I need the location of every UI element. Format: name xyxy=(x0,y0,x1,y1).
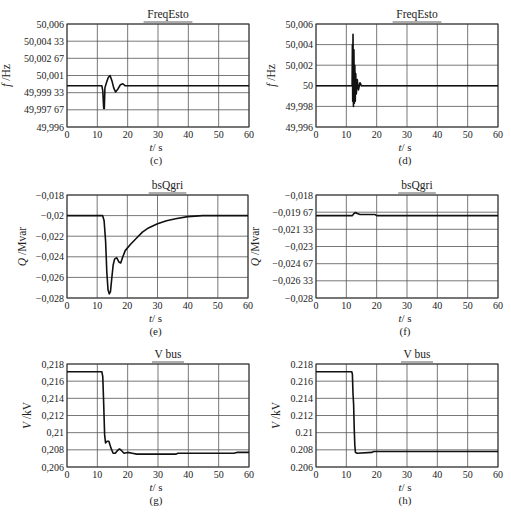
x-tick-label: 50 xyxy=(214,469,224,480)
y-tick-label: 50,002 xyxy=(286,60,314,71)
y-tick-label: 0,218 xyxy=(42,359,65,370)
y-tick-label: −0,024 67 xyxy=(272,258,313,269)
x-tick-label: 10 xyxy=(341,129,351,140)
x-tick-label: 30 xyxy=(402,129,412,140)
x-tick-label: 60 xyxy=(493,129,503,140)
x-tick-label: 0 xyxy=(65,300,70,311)
x-tick-label: 20 xyxy=(122,300,132,311)
y-tick-label: −0,024 xyxy=(36,251,64,262)
y-tick-label: 0,214 xyxy=(42,393,65,404)
y-tick-label: 0,212 xyxy=(42,410,65,421)
x-tick-label: 10 xyxy=(92,129,102,140)
y-tick-label: 0,216 xyxy=(42,376,65,387)
grid-lines xyxy=(67,24,249,127)
y-tick-label: 0.21 xyxy=(296,427,314,438)
x-tick-label: 10 xyxy=(92,469,102,480)
x-axis-label: t/ s xyxy=(398,141,411,153)
y-tick-label: 50,001 xyxy=(37,70,65,81)
y-tick-label: 49,996 xyxy=(286,122,314,133)
y-tick-label: −0,019 67 xyxy=(272,207,313,218)
y-tick-label: 0.208 xyxy=(291,444,314,455)
panel-label: (f) xyxy=(400,325,411,338)
panel-label: (d) xyxy=(399,154,412,167)
y-tick-label: 0,206 xyxy=(42,462,65,473)
y-tick-label: −0,023 xyxy=(285,241,313,252)
x-tick-label: 0 xyxy=(314,469,319,480)
figure-canvas: FreqEsto50,00650,004 3350,002 6750,00149… xyxy=(0,0,511,518)
y-tick-label: 49,997 67 xyxy=(24,104,64,115)
y-tick-label: 50,006 xyxy=(286,19,314,30)
x-axis-label: t/ s xyxy=(398,312,411,324)
x-tick-label: 60 xyxy=(493,300,503,311)
y-tick-label: 49,999 33 xyxy=(24,87,64,98)
y-tick-label: −0,018 xyxy=(36,190,64,201)
y-tick-label: 0.216 xyxy=(291,376,314,387)
chart-panel-g: V bus0,2180,2160,2140,2120,210,2080,2060… xyxy=(21,348,254,507)
x-tick-label: 40 xyxy=(183,300,193,311)
y-tick-label: 0.212 xyxy=(291,410,314,421)
x-tick-label: 50 xyxy=(214,129,224,140)
x-tick-label: 20 xyxy=(372,300,382,311)
chart-title: bsQgri xyxy=(152,179,183,192)
y-tick-label: 50,002 67 xyxy=(24,53,64,64)
grid-lines xyxy=(316,24,498,127)
x-tick-label: 10 xyxy=(341,300,351,311)
x-tick-label: 0 xyxy=(65,469,70,480)
y-axis-label: V /kV xyxy=(270,401,282,429)
x-tick-label: 50 xyxy=(463,129,473,140)
x-tick-label: 0 xyxy=(314,300,319,311)
y-tick-label: −0,021 33 xyxy=(272,224,313,235)
x-tick-label: 0 xyxy=(314,129,319,140)
y-axis-label: f /Hz xyxy=(0,64,13,87)
x-tick-label: 10 xyxy=(92,300,102,311)
y-tick-label: −0,026 33 xyxy=(272,275,313,286)
grid-lines xyxy=(67,364,249,467)
x-tick-label: 20 xyxy=(123,469,133,480)
chart-panel-h: V bus0.2180.2160.2140.2120.210.2080.2060… xyxy=(270,348,503,507)
x-tick-label: 30 xyxy=(153,469,163,480)
x-tick-label: 30 xyxy=(153,300,163,311)
y-tick-label: 50 xyxy=(303,80,313,91)
panel-label: (e) xyxy=(149,325,162,338)
panel-label: (g) xyxy=(150,494,163,507)
x-tick-label: 20 xyxy=(372,469,382,480)
y-tick-label: −0,026 xyxy=(36,272,64,283)
chart-title: V bus xyxy=(404,348,431,360)
y-tick-label: −0,028 xyxy=(36,293,64,304)
x-tick-label: 60 xyxy=(244,129,254,140)
chart-title: bsQgri xyxy=(401,179,432,192)
y-tick-label: 0.206 xyxy=(291,462,314,473)
x-tick-label: 40 xyxy=(183,129,193,140)
chart-panel-f: bsQgri−0,018−0,019 67−0,021 33−0,023−0,0… xyxy=(249,179,503,338)
y-axis-label: V /kV xyxy=(21,401,33,429)
x-tick-label: 60 xyxy=(243,300,253,311)
chart-title: FreqEsto xyxy=(147,8,189,21)
y-tick-label: 0.214 xyxy=(291,393,314,404)
x-tick-label: 30 xyxy=(153,129,163,140)
x-tick-label: 20 xyxy=(372,129,382,140)
grid-lines xyxy=(67,195,248,298)
y-tick-label: 0.218 xyxy=(291,359,314,370)
x-tick-label: 20 xyxy=(123,129,133,140)
chart-title: V bus xyxy=(155,348,182,360)
y-tick-label: −0,02 xyxy=(41,210,64,221)
x-tick-label: 50 xyxy=(463,469,473,480)
chart-panel-c: FreqEsto50,00650,004 3350,002 6750,00149… xyxy=(0,8,254,167)
chart-panel-e: bsQgri−0,018−0,02−0,022−0,024−0,026−0,02… xyxy=(16,179,253,338)
panel-label: (c) xyxy=(150,154,163,167)
y-tick-label: 50,004 33 xyxy=(24,36,64,47)
x-tick-label: 0 xyxy=(65,129,70,140)
grid-lines xyxy=(316,195,498,298)
chart-panel-d: FreqEsto50,00650,00450,0025049,99849,996… xyxy=(265,8,503,167)
y-tick-label: 50,004 xyxy=(286,39,314,50)
y-axis-label: Q /Mvar xyxy=(16,227,28,266)
y-tick-label: 49,996 xyxy=(37,122,65,133)
x-tick-label: 40 xyxy=(432,300,442,311)
x-tick-label: 30 xyxy=(402,300,412,311)
y-axis-label: Q /Mvar xyxy=(249,227,261,266)
y-tick-label: −0,028 xyxy=(285,293,313,304)
x-axis-label: t/ s xyxy=(149,481,162,493)
y-tick-label: 0,208 xyxy=(42,444,65,455)
x-axis-label: t/ s xyxy=(149,141,162,153)
x-tick-label: 50 xyxy=(463,300,473,311)
